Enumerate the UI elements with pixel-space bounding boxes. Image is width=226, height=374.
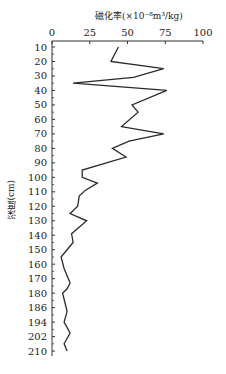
- y-tick-label: 100: [28, 172, 47, 183]
- y-tick-label: 202: [28, 331, 47, 342]
- y-tick-label: 30: [34, 70, 47, 81]
- axes: [52, 41, 203, 356]
- y-tick-label: 210: [28, 346, 47, 357]
- y-tick-label: 60: [34, 114, 47, 125]
- y-axis-ticks: 1020304050607080901001101201301401501601…: [28, 42, 55, 357]
- y-tick-label: 150: [28, 244, 47, 255]
- x-tick-label: 50: [121, 27, 134, 38]
- y-tick-label: 90: [34, 157, 47, 168]
- x-tick-label: 0: [49, 27, 55, 38]
- y-tick-label: 130: [28, 215, 47, 226]
- y-tick-label: 140: [28, 230, 47, 241]
- y-tick-label: 194: [28, 317, 47, 328]
- y-tick-label: 70: [34, 128, 47, 139]
- y-tick-label: 186: [28, 302, 47, 313]
- y-tick-label: 170: [28, 273, 47, 284]
- y-tick-label: 160: [28, 259, 47, 270]
- y-tick-label: 20: [34, 56, 47, 67]
- chart-canvas: 0255075100 10203040506070809010011012013…: [0, 0, 226, 374]
- x-tick-label: 25: [83, 27, 96, 38]
- y-tick-label: 110: [28, 186, 47, 197]
- y-tick-label: 180: [28, 288, 47, 299]
- series-line: [61, 47, 167, 351]
- y-tick-label: 40: [34, 85, 47, 96]
- y-tick-label: 120: [28, 201, 47, 212]
- x-tick-label: 100: [193, 27, 212, 38]
- y-tick-label: 50: [34, 99, 47, 110]
- y-tick-label: 80: [34, 143, 47, 154]
- x-tick-label: 75: [159, 27, 172, 38]
- y-tick-label: 10: [34, 42, 47, 53]
